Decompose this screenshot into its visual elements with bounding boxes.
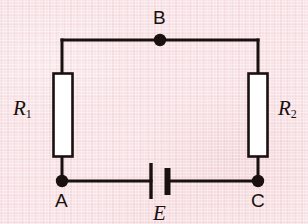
resistor-r2-body	[249, 74, 268, 157]
resistor-r1-body	[54, 74, 73, 157]
node-c-dot	[252, 175, 264, 187]
node-c-label: C	[251, 191, 265, 210]
node-a-dot	[56, 175, 68, 187]
resistor-r2-label-subscript: 2	[291, 107, 297, 121]
resistor-r1-label: R1	[13, 98, 32, 119]
resistor-r2-label-symbol: R	[278, 96, 291, 120]
circuit-diagram-figure: B A C R1 R2 E	[0, 0, 308, 224]
node-a-label: A	[55, 191, 68, 210]
node-b-dot	[154, 34, 166, 46]
resistor-r1-label-subscript: 1	[26, 107, 32, 121]
resistor-r1-label-symbol: R	[13, 96, 26, 120]
resistor-r2-label: R2	[278, 98, 297, 119]
battery-label: E	[153, 203, 166, 224]
node-b-label: B	[153, 8, 166, 27]
